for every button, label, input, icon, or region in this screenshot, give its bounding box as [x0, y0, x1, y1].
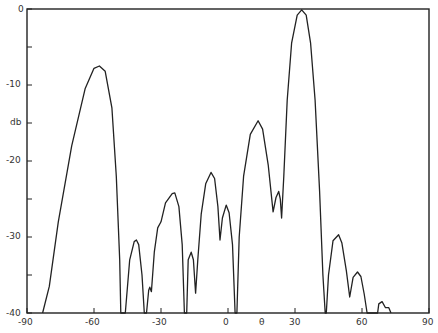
plot-frame: [27, 9, 429, 313]
y-axis-ticks: [27, 9, 32, 313]
x-tick-label-90: 90: [422, 317, 434, 327]
x-tick-label-minus-60: -60: [85, 317, 100, 327]
pattern-curve: [43, 10, 391, 313]
x-tick-label-minus-90: -90: [18, 317, 33, 327]
x-tick-label-30: 30: [289, 317, 301, 327]
radiation-pattern-chart: 0 -10 db -20 -30 -40 -90 -60 -30 0 θ 30 …: [0, 0, 438, 333]
y-tick-label-minus-10: -10: [6, 79, 21, 89]
x-tick-label-60: 60: [356, 317, 368, 327]
y-axis-unit-label: db: [10, 117, 22, 127]
y-tick-label-minus-30: -30: [6, 231, 21, 241]
x-tick-label-0: 0: [223, 317, 229, 327]
x-axis-ticks: [27, 308, 429, 313]
y-tick-label-minus-20: -20: [6, 155, 21, 165]
y-tick-label-0: 0: [18, 4, 24, 14]
x-tick-label-minus-30: -30: [152, 317, 167, 327]
x-axis-theta-label: θ: [259, 317, 265, 327]
